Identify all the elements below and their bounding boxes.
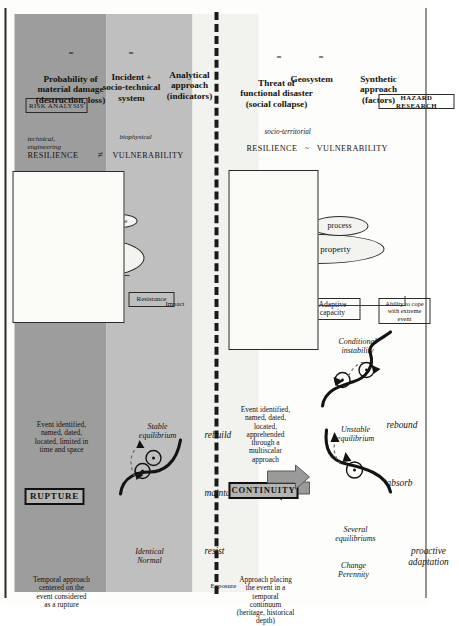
ellipse-process: process (310, 216, 368, 236)
equation-risk-part3: Analytical approach (indicators) (143, 70, 235, 101)
term-vulnerability-sub-top: biophysical (119, 134, 151, 142)
frame-resilience-vulnerability-bottom (228, 170, 318, 350)
label-impact: Impact (165, 300, 184, 308)
conditional-instability-label: Conditional instability (322, 338, 392, 356)
term-vulnerability-top: VULNERABILITY (112, 151, 183, 160)
verb-rebound: rebound (386, 420, 417, 431)
several-equilibriums-label: Several equilibriums (320, 526, 390, 544)
box-hazard-research: HAZARD RESEARCH (378, 94, 454, 109)
top-rule (4, 8, 6, 598)
frame-resilience-vulnerability-top (12, 171, 124, 323)
rupture-state-text: Identical Normal (116, 548, 182, 566)
arrow-bottom-half (266, 464, 310, 490)
relation-sub-bottom: socio-territorial (264, 128, 310, 136)
rupture-event-text: Event identified, named, dated, located,… (20, 421, 102, 454)
verb-proactive-adaptation: proactive adaptation (386, 546, 459, 567)
equation-hazard-eq1: = (276, 52, 281, 62)
continuity-approach-text: Approach placing the event in a temporal… (224, 576, 306, 626)
dashed-divider (214, 12, 218, 594)
continuity-event-text: Event identified, named, dated, located,… (224, 406, 306, 464)
connector-cope (404, 296, 405, 306)
equation-hazard-part2: Geosystem (290, 74, 332, 84)
equation-risk-eq2: = (128, 48, 133, 58)
unstable-equilibrium-label: Unstable equilibrium (322, 426, 388, 444)
equation-risk-eq1: = (68, 48, 73, 58)
continuity-state-text: Change Perennity (320, 562, 386, 580)
term-resilience-top: RESILIENCE (27, 151, 78, 160)
operator-not-equal: ≠ (97, 149, 103, 160)
relation-resilience-vulnerability-bottom: RESILIENCE ~ VULNERABILITY (246, 144, 387, 153)
rupture-approach-text: Temporal approach centered on the event … (20, 576, 102, 609)
term-resilience-sub-top: technical, engineering (27, 136, 87, 152)
stable-equilibrium-label: Stable equilibrium (124, 423, 190, 441)
keyword-box-rupture: RUPTURE (24, 488, 84, 505)
equation-hazard-eq2: = (318, 52, 323, 62)
verb-absorb: absorb (386, 478, 412, 489)
